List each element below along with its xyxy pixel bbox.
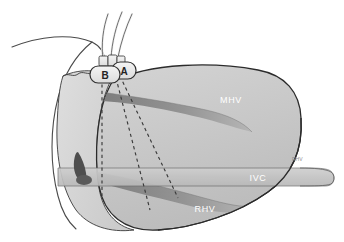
inferior-vena-cava [58,168,334,186]
ivc-label: IVC [250,173,267,183]
mhv-label: MHV [220,95,242,105]
anatomical-figure: A B MHV IVC RHV RHV [0,0,344,242]
port-b-label: B [101,70,108,81]
small-vessel-label: RHV [292,156,303,162]
catheter-tubes [102,12,132,60]
port-b[interactable]: B [90,66,120,83]
figure-canvas: A B MHV IVC RHV RHV [0,0,344,242]
port-a-label: A [120,66,127,77]
rhv-label: RHV [195,204,216,214]
